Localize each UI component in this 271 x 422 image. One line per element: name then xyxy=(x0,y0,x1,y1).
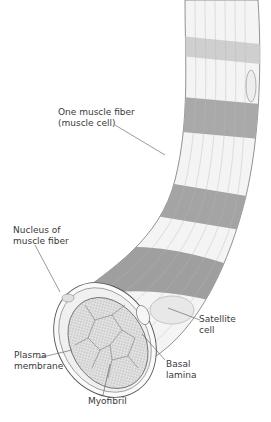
label-line: Satellite xyxy=(199,314,236,325)
label-line: cell xyxy=(199,325,236,336)
nucleus xyxy=(62,294,74,302)
label-plasma-membrane: Plasma membrane xyxy=(14,350,63,372)
label-nucleus: Nucleus of muscle fiber xyxy=(13,225,69,247)
label-myofibril: Myofibril xyxy=(88,396,127,407)
label-line: Nucleus of xyxy=(13,225,69,236)
label-line: muscle fiber xyxy=(13,236,69,247)
satellite-cell xyxy=(150,296,194,324)
label-line: Basal xyxy=(166,359,197,370)
label-line: Plasma xyxy=(14,350,63,361)
label-line: Myofibril xyxy=(88,396,127,407)
label-line: membrane xyxy=(14,361,63,372)
label-line: One muscle fiber xyxy=(58,107,135,118)
label-basal-lamina: Basal lamina xyxy=(166,359,197,381)
label-line: lamina xyxy=(166,370,197,381)
label-muscle-fiber: One muscle fiber (muscle cell) xyxy=(58,107,135,129)
label-line: (muscle cell) xyxy=(58,118,135,129)
label-satellite-cell: Satellite cell xyxy=(199,314,236,336)
